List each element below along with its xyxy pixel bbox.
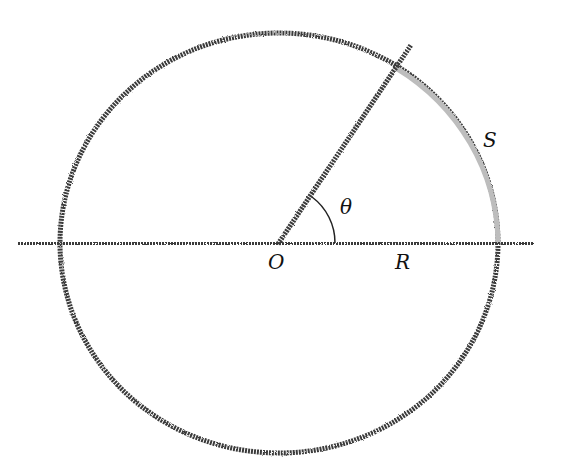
- horizontal-axis-line: [18, 243, 534, 244]
- origin-label: O: [268, 250, 284, 274]
- arc-s: [396, 68, 498, 243]
- angle-label: θ: [340, 195, 352, 219]
- radius-label: R: [395, 250, 410, 274]
- arc-label: S: [483, 128, 497, 152]
- diagram-canvas: O R θ S: [0, 0, 561, 470]
- diagram-svg: [0, 0, 561, 470]
- angle-arc: [312, 197, 335, 243]
